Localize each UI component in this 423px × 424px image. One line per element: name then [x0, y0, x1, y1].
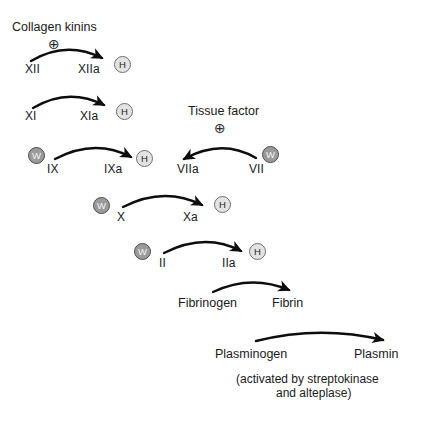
cofactor-badge-w-vii: W	[262, 146, 279, 163]
factor-label-ixa: IXa	[104, 163, 122, 176]
arrow-ii-to-iia	[164, 242, 241, 253]
arrow-vii-to-viia	[184, 148, 256, 159]
factor-label-vii: VII	[249, 163, 264, 176]
stimulus-label-tissue-factor: Tissue factor	[188, 105, 259, 118]
factor-label-iia: IIa	[222, 257, 236, 270]
factor-label-xa: Xa	[183, 211, 198, 224]
factor-label-fibrinogen: Fibrinogen	[178, 297, 237, 310]
arrow-fibrinogen-to-fibrin	[213, 282, 289, 292]
plus-circle-icon-collagen-kinins: ⊕	[48, 37, 60, 51]
activation-note-line-1: (activated by streptokinase	[236, 372, 379, 386]
cofactor-badge-h-xia: H	[116, 103, 133, 120]
coagulation-cascade-diagram: Collagen kinins ⊕ Tissue factor ⊕ XII XI…	[0, 0, 423, 424]
stimulus-label-collagen-kinins: Collagen kinins	[12, 21, 97, 34]
factor-label-xi: XI	[25, 110, 37, 123]
activation-note-line-2: and alteplase)	[276, 386, 351, 400]
factor-label-ix: IX	[47, 163, 59, 176]
arrow-xii-to-xiia	[31, 50, 102, 61]
plus-circle-icon-tissue-factor: ⊕	[214, 121, 226, 135]
cofactor-badge-w-ii: W	[134, 243, 151, 260]
cofactor-badge-h-xiia: H	[114, 56, 131, 73]
factor-label-xiia: XIIa	[78, 63, 100, 76]
cofactor-badge-w-ix: W	[28, 147, 45, 164]
factor-label-xia: XIa	[80, 110, 98, 123]
arrow-x-to-xa	[123, 196, 202, 207]
arrow-plasminogen-to-plasmin	[256, 333, 383, 341]
factor-label-x: X	[117, 211, 125, 224]
cofactor-badge-h-xa: H	[214, 196, 231, 213]
factor-label-xii: XII	[25, 63, 40, 76]
factor-label-plasmin: Plasmin	[354, 348, 398, 361]
cofactor-badge-w-x: W	[93, 197, 110, 214]
cofactor-badge-h-iia: H	[249, 243, 266, 260]
factor-label-plasminogen: Plasminogen	[215, 348, 287, 361]
arrow-ix-to-ixa	[55, 148, 131, 159]
cofactor-badge-h-ixa: H	[136, 150, 153, 167]
arrow-xi-to-xia	[33, 97, 104, 108]
factor-label-ii: II	[159, 257, 166, 270]
factor-label-viia: VIIa	[177, 163, 199, 176]
factor-label-fibrin: Fibrin	[272, 297, 303, 310]
